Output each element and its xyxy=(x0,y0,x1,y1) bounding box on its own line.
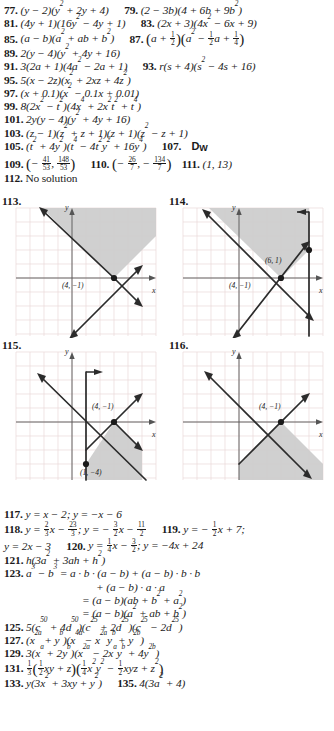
answer-line-cont: + (a − b) · a · a xyxy=(4,581,330,594)
answer-block-top: 77. (y − 2)(y2 + 2y + 4) 79. (2 − 3b)(4 … xyxy=(0,4,334,185)
answer-expression-cont: = (a − b)(a2 + ab + b2) xyxy=(82,607,186,619)
answer-line: 81. (4y + 1)(16y2 − 4y + 1) 83. (2x + 3)… xyxy=(4,17,330,30)
answer-number: 85. xyxy=(4,32,18,44)
intersection-point xyxy=(111,275,117,281)
answer-expression: (a + 12)(a2 − 12a + 14) xyxy=(146,32,244,44)
x-axis-label-113: x xyxy=(152,286,156,295)
answer-number: 93. xyxy=(143,60,157,72)
answer-number: 110. xyxy=(91,157,110,169)
answer-line: 105. (t2 + 4y2)(t4 − 4t2y2 + 16y4) 107. … xyxy=(4,140,330,156)
answer-expression: (2 − 3b)(4 + 6b + 9b2) xyxy=(141,4,242,16)
answer-number: 119. xyxy=(162,523,181,535)
x-axis-label-115: x xyxy=(152,430,156,439)
graph-plot-115 xyxy=(12,350,160,482)
answer-line: 77. (y − 2)(y2 + 2y + 4) 79. (2 − 3b)(4 … xyxy=(4,4,330,17)
y-axis-label-116: y xyxy=(232,347,236,356)
answer-number: 87. xyxy=(130,32,144,44)
answer-number: 109. xyxy=(4,157,23,169)
answer-line: 118. y = 23x − 233; y = − 32x − 112 119.… xyxy=(4,521,330,537)
answer-number: 112. xyxy=(4,172,23,184)
answer-expression: y = 14x − 32; y = −4x + 24 xyxy=(88,539,203,551)
answer-number: 77. xyxy=(4,4,18,16)
y-axis-label-113: y xyxy=(65,203,69,212)
answer-number: 123. xyxy=(4,567,23,579)
region-arrow-top xyxy=(94,369,103,375)
answer-expression-cont: y = 2x − 3 xyxy=(4,539,51,551)
graph-svg-115 xyxy=(12,350,160,482)
x-axis-label-116: x xyxy=(319,430,323,439)
answer-line: 85. (a − b)(a2 + ab + b2) 87. (a + 12)(a… xyxy=(4,31,330,47)
graph-figure-113: 113. xyxy=(0,196,167,338)
intersection-point xyxy=(278,419,284,425)
answer-number: 129. xyxy=(4,647,23,659)
answer-number: 89. xyxy=(4,47,18,59)
answer-line-cont: = (a − b)(a2 + ab + b2) xyxy=(4,607,330,620)
answer-number: 99. xyxy=(4,100,18,112)
answer-expression: (t2 + 4y2)(t4 − 4t2y2 + 16y4) xyxy=(26,140,146,152)
answer-block-bottom: 117. y = x − 2; y = −x − 6 118. y = 23x … xyxy=(0,508,334,690)
x-axis-arrow xyxy=(149,419,156,424)
answer-number: 120. xyxy=(66,539,85,551)
answer-number: 127. xyxy=(4,634,23,646)
graph-figure-114: 114. xyxy=(167,196,334,338)
graph-svg-116 xyxy=(179,350,327,482)
point-label-116-0: (4, −1) xyxy=(259,402,281,411)
answer-expression: 2y(y − 4)(y2 + 4y + 16) xyxy=(26,113,130,125)
point-label-114-1: (4, −1) xyxy=(229,281,251,290)
answer-line: 91. 3(2a + 1)(4a2 − 2a + 1) 93. r(s + 4)… xyxy=(4,60,330,73)
graph-figure-115: 115. xyxy=(0,340,167,482)
answer-expression: (− 267, − 1347) xyxy=(112,157,171,169)
answer-expression: 5(x − 2z)(x2 + 2xz + 4z2) xyxy=(21,74,131,86)
answer-line: 125. 5(c50 + 4d50)(c25 + 2d25)(c25 − 2d2… xyxy=(4,621,330,634)
answer-expression: 3(2a + 1)(4a2 − 2a + 1) xyxy=(21,60,128,72)
answer-number: 105. xyxy=(4,140,23,152)
answer-expression: (x + 0.1)(x2 − 0.1x + 0.01) xyxy=(21,87,140,99)
answer-number: 125. xyxy=(4,621,23,633)
answer-number: 111. xyxy=(182,157,200,169)
answer-key-page: 77. (y − 2)(y2 + 2y + 4) 79. (2 − 3b)(4 … xyxy=(0,0,334,731)
answer-expression: (2x + 3)(4x2 − 6x + 9) xyxy=(157,17,256,29)
answer-line: 95. 5(x − 2z)(x2 + 2xz + 4z2) xyxy=(4,74,330,87)
answer-line: 129. 3(xa + 2yb)(x2a − 2xayb + 4y2b) xyxy=(4,647,330,660)
answer-line: 99. 8(2x2 − t2)(4x4 + 2x2t2 + t4) xyxy=(4,100,330,113)
point-label-113-0: (4, −1) xyxy=(62,281,84,290)
intersection-point-lower xyxy=(83,461,89,467)
y-axis-label-115: y xyxy=(65,347,69,356)
answer-expression: a3 − b3 = a · b · (a − b) + (a − b) · b … xyxy=(26,567,200,579)
answer-expression: h(3a2 + 3ah + h2) xyxy=(26,554,105,566)
answer-number: 91. xyxy=(4,60,18,72)
answer-number: 118. xyxy=(4,523,23,535)
graph-svg-113 xyxy=(12,206,160,338)
answer-line: 133. y(3x2 + 3xy + y2) 135. 4(3a2 + 4) xyxy=(4,677,330,690)
answer-number: 95. xyxy=(4,74,18,86)
answer-expression: 8(2x2 − t2)(4x4 + 2x2t2 + t4) xyxy=(21,100,141,112)
answer-number: 79. xyxy=(124,4,138,16)
answer-expression-cont: + (a − b) · a · a xyxy=(96,581,165,593)
answer-expression: 4(3a2 + 4) xyxy=(139,677,185,689)
answer-line: 121. h(3a2 + 3ah + h2) xyxy=(4,554,330,567)
graph-plot-116 xyxy=(179,350,327,482)
answer-line-cont: = (a − b)(ab + b2 + a2) xyxy=(4,594,330,607)
answer-expression: (y − 2)(y2 + 2y + 4) xyxy=(21,4,109,16)
answer-number: 121. xyxy=(4,554,23,566)
answer-number: 107. xyxy=(162,140,181,152)
answer-expression: 2(y − 4)(y2 + 4y + 16) xyxy=(21,47,120,59)
intersection-point-lower xyxy=(278,275,284,281)
answer-line: 103. (z − 1)(z2 + z + 1)(z + 1)(z2 − z +… xyxy=(4,127,330,140)
answer-expression: (− 4153, 14853) xyxy=(26,157,75,169)
answer-expression: r(s + 4)(s2 − 4s + 16) xyxy=(159,60,255,72)
intersection-point-upper xyxy=(306,247,312,253)
answer-line: 109. (− 4153, 14853) 110. (− 267, − 1347… xyxy=(4,156,330,172)
answer-line: 117. y = x − 2; y = −x − 6 xyxy=(4,508,330,521)
intersection-point-upper xyxy=(111,419,117,425)
answer-number: 135. xyxy=(117,677,136,689)
discussion-writing-icon: DW xyxy=(192,140,208,156)
answer-number: 81. xyxy=(4,17,18,29)
x-axis-arrow xyxy=(316,275,323,280)
answer-number: 103. xyxy=(4,127,23,139)
point-label-114-0: (6, 1) xyxy=(265,256,281,265)
y-axis-arrow xyxy=(236,352,241,359)
answer-line: 97. (x + 0.1)(x2 − 0.1x + 0.01) xyxy=(4,87,330,100)
answer-expression: y(3x2 + 3xy + y2) xyxy=(26,677,102,689)
graph-svg-114 xyxy=(179,206,327,338)
